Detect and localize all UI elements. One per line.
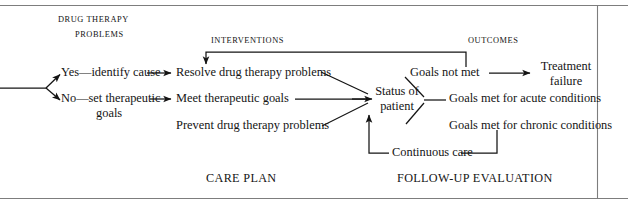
header-drug-therapy-problems-line2: PROBLEMS	[75, 30, 124, 39]
node-no-set-therapeutic-goals-line1: No—set therapeutic	[61, 92, 160, 105]
node-prevent-drug-therapy-problems: Prevent drug therapy problems	[176, 119, 329, 132]
node-treatment-failure-line1: Treatment	[533, 60, 599, 73]
split-branch-no	[46, 88, 60, 100]
header-drug-therapy-problems-line1: DRUG THERAPY	[58, 15, 129, 24]
node-goals-met-chronic-conditions: Goals met for chronic conditions	[449, 119, 612, 132]
node-continuous-care: Continuous care	[392, 146, 473, 159]
header-interventions: INTERVENTIONS	[211, 36, 284, 45]
node-no-set-therapeutic-goals-line2: goals	[96, 107, 122, 120]
caption-follow-up-evaluation: FOLLOW-UP EVALUATION	[397, 172, 553, 185]
node-status-of-patient-line2: patient	[368, 100, 426, 113]
split-branch-yes	[46, 75, 60, 89]
node-meet-therapeutic-goals: Meet therapeutic goals	[176, 92, 289, 105]
node-treatment-failure-line2: failure	[533, 75, 599, 88]
node-resolve-drug-therapy-problems: Resolve drug therapy problems	[176, 66, 331, 79]
node-yes-identify-cause: Yes—identify cause	[61, 66, 161, 79]
node-goals-not-met: Goals not met	[410, 66, 480, 79]
node-status-of-patient-line1: Status of	[368, 85, 426, 98]
caption-care-plan: CARE PLAN	[206, 172, 277, 185]
diagram-canvas: DRUG THERAPY PROBLEMS INTERVENTIONS OUTC…	[0, 0, 630, 214]
loop-continuous-care-to-status	[369, 115, 389, 153]
node-goals-met-acute-conditions: Goals met for acute conditions	[449, 92, 601, 105]
header-outcomes: OUTCOMES	[468, 36, 518, 45]
